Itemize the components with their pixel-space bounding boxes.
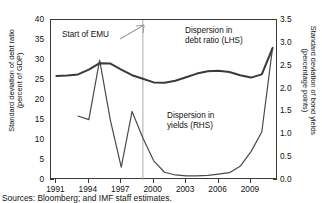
y-axis-left-tick-0: 0 <box>22 174 44 184</box>
emu-arrow-icon <box>118 22 150 42</box>
plot-svg <box>51 20 278 180</box>
y-axis-right-tick-0.0: 0.0 <box>280 174 304 184</box>
y-axis-left-tick-35: 35 <box>22 34 44 44</box>
y-axis-right-tick-0.5: 0.5 <box>280 151 304 161</box>
annotation-yields-label: Dispersion in yields (RHS) <box>167 111 214 130</box>
y-axis-right-tick-2.5: 2.5 <box>280 60 304 70</box>
annotation-debt-ratio-label: Dispersion in debt ratio (LHS) <box>185 26 243 45</box>
source-note: Sources: Bloomberg; and IMF staff estima… <box>2 193 172 203</box>
y-axis-left-tick-25: 25 <box>22 74 44 84</box>
annotation-start-of-emu: Start of EMU <box>62 30 109 40</box>
y-axis-right-tick-2.0: 2.0 <box>280 83 304 93</box>
x-axis-tick-2009: 2009 <box>233 184 267 194</box>
y-axis-right-tick-1.5: 1.5 <box>280 105 304 115</box>
y-axis-left-tick-40: 40 <box>22 14 44 24</box>
x-axis-tick-2003: 2003 <box>168 184 202 194</box>
y-axis-left-tick-30: 30 <box>22 54 44 64</box>
x-axis-tick-2006: 2006 <box>201 184 235 194</box>
y-axis-left-tick-15: 15 <box>22 114 44 124</box>
y-axis-left-tick-5: 5 <box>22 154 44 164</box>
y-axis-left-tick-20: 20 <box>22 94 44 104</box>
y-axis-right-tick-3.0: 3.0 <box>280 37 304 47</box>
series-line-debt-ratio <box>56 48 272 83</box>
y-axis-left-tick-10: 10 <box>22 134 44 144</box>
y-axis-right-tick-1.0: 1.0 <box>280 128 304 138</box>
chart-figure: Standard deviation of debt ratio (percen… <box>0 0 322 203</box>
y-axis-right-tick-3.5: 3.5 <box>280 14 304 24</box>
